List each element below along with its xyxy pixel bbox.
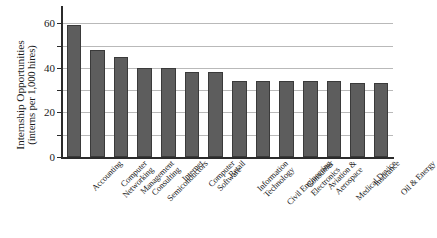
y-axis-title-line-1: Internship Opportunities <box>14 40 26 149</box>
y-axis-title: Internship Opportunities (interns per 1,… <box>10 20 42 170</box>
bar <box>279 81 294 157</box>
y-axis-tick-label: 0 <box>50 151 56 163</box>
bar <box>90 50 105 157</box>
y-axis-minor-tick-mark <box>57 46 62 47</box>
y-axis-tick-mark <box>57 112 62 113</box>
y-axis-minor-tick-mark <box>57 135 62 136</box>
plot-area: 0204060 <box>62 12 393 157</box>
y-axis-tick-mark <box>57 23 62 24</box>
bars-layer <box>62 12 393 157</box>
bar <box>161 68 176 157</box>
bar <box>67 25 82 157</box>
y-axis-tick-mark <box>57 157 62 158</box>
y-axis-title-line-2: (interns per 1,000 hires) <box>26 45 37 144</box>
bar <box>350 83 365 157</box>
bar <box>327 81 342 157</box>
x-axis-category-labels: AccountingComputerNetworkingManagementCo… <box>62 159 393 238</box>
y-axis-tick-label: 60 <box>44 17 55 29</box>
y-axis-tick-mark <box>57 68 62 69</box>
bar <box>114 57 129 157</box>
bar <box>374 83 389 157</box>
bar <box>137 68 152 157</box>
bar <box>256 81 271 157</box>
x-axis-label: Oil & Energy <box>399 159 437 197</box>
y-axis-minor-tick-mark <box>57 90 62 91</box>
bar <box>303 81 318 157</box>
bar <box>232 81 247 157</box>
x-axis-label-line: Oil & Energy <box>399 159 437 197</box>
y-axis-tick-label: 20 <box>44 106 55 118</box>
y-axis-tick-label: 40 <box>44 62 55 74</box>
bar <box>185 72 200 157</box>
bar <box>208 72 223 157</box>
